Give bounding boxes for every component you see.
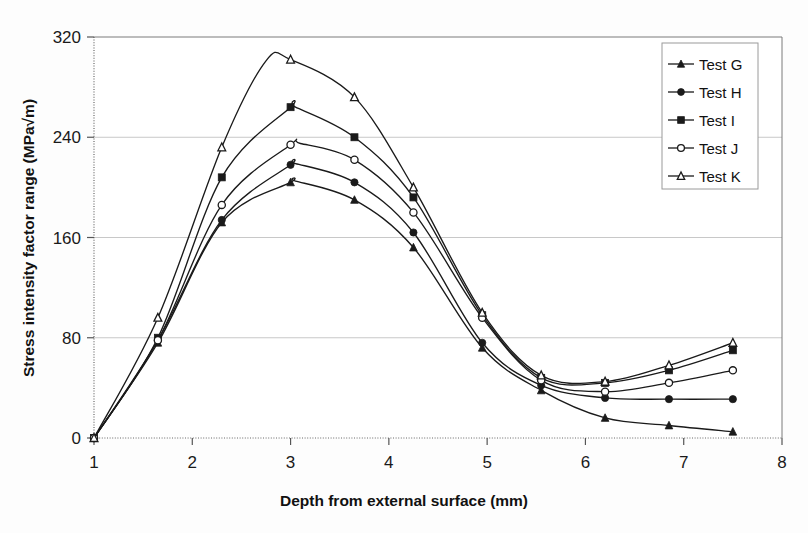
x-axis-tick-labels: 12345678 [89, 453, 786, 472]
x-tick-label: 7 [679, 453, 688, 472]
data-point-marker [287, 161, 294, 168]
chart-figure: 080160240320 12345678 Depth from externa… [0, 0, 808, 533]
data-point-marker [351, 179, 358, 186]
data-point-marker [665, 396, 672, 403]
x-tick-label: 8 [777, 453, 786, 472]
data-point-marker [351, 156, 358, 163]
data-point-marker [410, 209, 417, 216]
data-point-marker [287, 141, 294, 148]
x-axis-ticks [94, 438, 782, 445]
x-tick-label: 5 [482, 453, 491, 472]
data-point-marker [218, 201, 225, 208]
y-tick-label: 320 [53, 28, 81, 47]
y-tick-label: 160 [53, 229, 81, 248]
x-tick-label: 3 [286, 453, 295, 472]
x-tick-label: 6 [581, 453, 590, 472]
x-tick-label: 1 [89, 453, 98, 472]
data-point-marker [218, 174, 225, 181]
x-axis-title: Depth from external surface (mm) [280, 492, 528, 509]
y-axis-ticks [87, 37, 94, 438]
data-point-marker [729, 367, 736, 374]
data-point-marker [410, 194, 417, 201]
data-point-marker [351, 134, 358, 141]
data-point-marker [479, 339, 486, 346]
data-point-marker [287, 104, 294, 111]
x-tick-label: 4 [384, 453, 393, 472]
data-point-marker [729, 396, 736, 403]
data-point-marker [218, 216, 225, 223]
line-chart: 080160240320 12345678 Depth from externa… [0, 0, 808, 533]
y-axis-tick-labels: 080160240320 [53, 28, 81, 448]
legend-item-label: Test H [699, 84, 742, 101]
data-point-marker [678, 145, 685, 152]
y-tick-label: 0 [72, 429, 81, 448]
data-point-marker [665, 379, 672, 386]
y-tick-label: 240 [53, 128, 81, 147]
data-point-marker [678, 117, 685, 124]
data-point-marker [410, 229, 417, 236]
legend-item-label: Test J [699, 140, 738, 157]
data-point-marker [729, 347, 736, 354]
data-point-marker [678, 89, 685, 96]
legend-item-label: Test I [699, 112, 735, 129]
y-tick-label: 80 [62, 329, 81, 348]
data-point-marker [154, 337, 161, 344]
legend-item-label: Test K [699, 168, 741, 185]
y-axis-title: Stress intensity factor range (MPa√m) [20, 99, 37, 377]
legend: Test GTest HTest ITest JTest K [662, 43, 758, 189]
data-point-marker [601, 388, 608, 395]
legend-item-label: Test G [699, 56, 742, 73]
x-tick-label: 2 [188, 453, 197, 472]
